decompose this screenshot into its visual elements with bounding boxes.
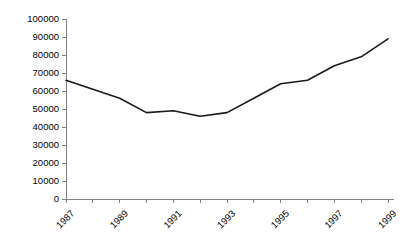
x-axis: 1987198919911993199519971999	[54, 199, 399, 230]
y-tick-label: 40000	[33, 121, 59, 132]
y-tick-label: 10000	[33, 175, 59, 186]
plot-area	[66, 39, 388, 116]
x-tick-label: 1989	[107, 208, 130, 231]
y-tick-label: 70000	[33, 67, 59, 78]
y-tick-label: 50000	[33, 103, 59, 114]
y-tick-label: 100000	[27, 13, 59, 24]
x-tick-label: 1999	[376, 208, 399, 231]
x-tick-label: 1991	[161, 208, 184, 231]
y-tick-label: 20000	[33, 157, 59, 168]
y-tick-label: 90000	[33, 31, 59, 42]
y-tick-label: 0	[54, 193, 59, 204]
x-tick-label: 1997	[322, 208, 345, 231]
x-tick-label: 1995	[268, 208, 291, 231]
y-tick-label: 60000	[33, 85, 59, 96]
series-line	[66, 39, 388, 116]
y-tick-label: 80000	[33, 49, 59, 60]
y-axis: 0100002000030000400005000060000700008000…	[27, 13, 66, 204]
y-tick-label: 30000	[33, 139, 59, 150]
x-tick-label: 1987	[54, 208, 77, 231]
line-chart: 0100002000030000400005000060000700008000…	[0, 0, 416, 244]
chart-canvas: 0100002000030000400005000060000700008000…	[0, 0, 416, 244]
x-tick-label: 1993	[215, 208, 238, 231]
